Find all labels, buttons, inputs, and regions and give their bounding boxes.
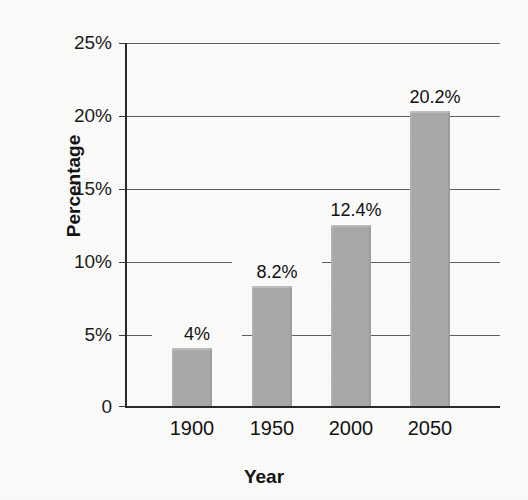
bar-highlight — [331, 225, 371, 227]
y-axis-tick-labels: 25% 20% 15% 10% 5% 0 — [0, 0, 112, 500]
x-tick-label-2050: 2050 — [390, 417, 470, 440]
x-axis-title: Year — [0, 466, 528, 488]
bar-value-2050: 20.2% — [390, 87, 480, 108]
y-axis-line — [125, 43, 127, 408]
bar-2000[interactable] — [331, 225, 371, 406]
x-tick-label-2000: 2000 — [311, 417, 391, 440]
gridline-25 — [127, 43, 500, 44]
bar-highlight — [410, 111, 450, 113]
bar-value-2000: 12.4% — [311, 200, 401, 221]
bar-1950[interactable] — [252, 286, 292, 406]
bar-value-1950: 8.2% — [232, 262, 322, 283]
x-axis-line — [125, 406, 500, 408]
bar-1900[interactable] — [172, 348, 212, 406]
bar-highlight — [172, 348, 212, 350]
x-tick-label-1950: 1950 — [232, 417, 312, 440]
plot-area: 4% 8.2% 12.4% 20.2% 1900 1950 2000 2050 — [125, 43, 500, 408]
chart-page: 25% 20% 15% 10% 5% 0 Percentage — [0, 0, 528, 500]
bar-highlight — [252, 286, 292, 288]
bar-2050[interactable] — [410, 111, 450, 406]
y-axis-title: Percentage — [63, 106, 85, 266]
x-tick-label-1900: 1900 — [152, 417, 232, 440]
y-tick-label-0: 0 — [101, 396, 112, 418]
bar-value-1900: 4% — [152, 324, 242, 345]
y-tick-label-25: 25% — [74, 32, 112, 54]
y-tick-label-5: 5% — [85, 324, 112, 346]
